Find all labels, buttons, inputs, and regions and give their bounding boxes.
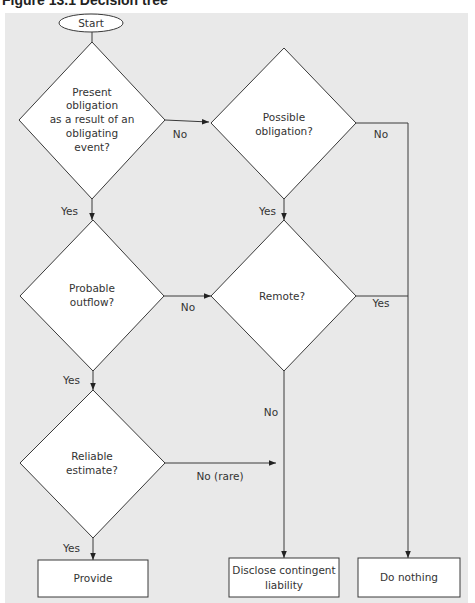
- decision-text-line: Present: [72, 86, 111, 98]
- decision-text-line: estimate?: [66, 464, 118, 476]
- outcome-disclose-contingent-liability: Disclose contingent liability: [229, 558, 339, 597]
- decision-present-obligation: Present obligation as a result of an obl…: [19, 42, 165, 199]
- edge-label-reliable-no: No (rare): [196, 470, 243, 482]
- decision-text-line: Probable: [69, 282, 115, 294]
- edge-label-possible-yes: Yes: [258, 205, 276, 217]
- decision-tree-diagram: Start Present obligation as a result of …: [0, 0, 475, 603]
- edge-label-remote-yes: Yes: [372, 297, 390, 309]
- decision-text-line: event?: [74, 141, 109, 153]
- edge-label-possible-no: No: [374, 128, 388, 140]
- decision-text-line: Reliable: [71, 450, 113, 462]
- decision-possible-obligation: Possible obligation?: [211, 48, 356, 199]
- decision-text-line: obligating: [66, 127, 118, 139]
- outcome-do-nothing: Do nothing: [358, 558, 460, 597]
- decision-text-line: Possible: [263, 111, 305, 123]
- edge-label-reliable-yes: Yes: [62, 542, 80, 554]
- decision-text-line: obligation?: [255, 125, 313, 137]
- outcome-label: Do nothing: [380, 571, 438, 583]
- edge-label-present-yes: Yes: [60, 205, 78, 217]
- decision-text-line: Remote?: [259, 290, 305, 302]
- edge-label-probable-no: No: [181, 301, 195, 313]
- edge-label-remote-no: No: [264, 406, 278, 418]
- decision-text-line: obligation: [66, 99, 118, 111]
- decision-text-line: as a result of an: [50, 113, 135, 125]
- edge-present-no: [165, 120, 209, 122]
- start-node: Start: [59, 14, 123, 32]
- outcome-label: liability: [265, 579, 303, 591]
- outcome-label: Provide: [74, 572, 113, 584]
- outcome-label: Disclose contingent: [232, 564, 335, 576]
- start-label: Start: [78, 17, 104, 29]
- edge-label-present-no: No: [173, 128, 187, 140]
- edge-possible-no: [356, 123, 408, 558]
- edge-label-probable-yes: Yes: [62, 374, 80, 386]
- outcome-provide: Provide: [38, 560, 148, 597]
- decision-probable-outflow: Probable outflow?: [20, 220, 164, 371]
- decision-remote: Remote?: [211, 220, 356, 371]
- decision-reliable-estimate: Reliable estimate?: [20, 390, 165, 538]
- decision-text-line: outflow?: [70, 296, 114, 308]
